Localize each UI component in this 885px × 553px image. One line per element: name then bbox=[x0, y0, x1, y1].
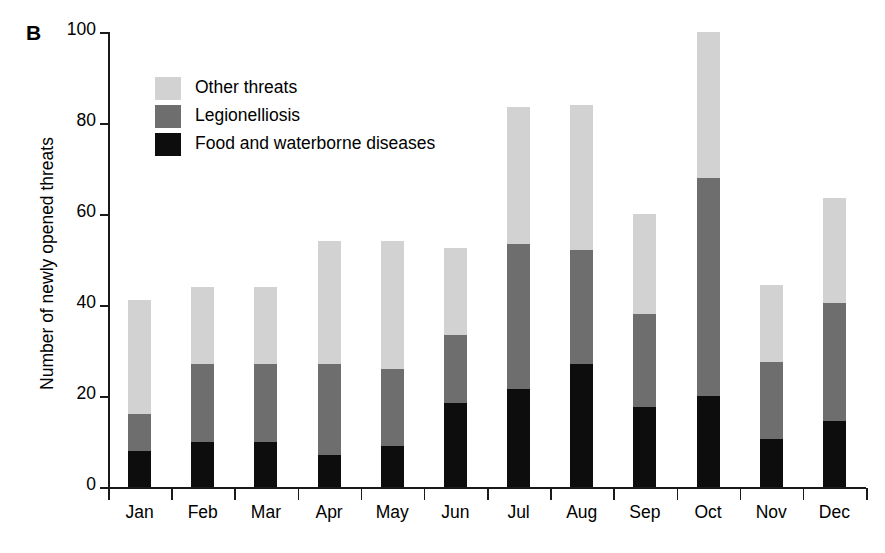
figure-panel-b: B Number of newly opened threats 0204060… bbox=[0, 0, 885, 553]
bar-segment-apr-1 bbox=[318, 364, 341, 455]
legend: Other threatsLegionelliosisFood and wate… bbox=[155, 74, 435, 158]
bar-segment-nov-1 bbox=[760, 362, 783, 439]
legend-swatch-other-threats bbox=[155, 77, 181, 100]
y-tick-label: 0 bbox=[86, 476, 96, 494]
bar-segment-oct-0 bbox=[697, 396, 720, 487]
bar-jun bbox=[444, 248, 467, 487]
bar-segment-jan-2 bbox=[128, 300, 151, 414]
y-tick-label: 20 bbox=[77, 385, 96, 403]
x-tick-label-apr: Apr bbox=[297, 504, 361, 522]
y-tick-label: 40 bbox=[77, 294, 96, 312]
x-tick-label-nov: Nov bbox=[739, 504, 803, 522]
bar-feb bbox=[191, 287, 214, 487]
bar-segment-feb-1 bbox=[191, 364, 214, 441]
bar-jul bbox=[507, 107, 530, 487]
x-tick-mark bbox=[740, 488, 742, 500]
x-tick-mark bbox=[550, 488, 552, 500]
bar-segment-dec-2 bbox=[823, 198, 846, 303]
bar-segment-sep-2 bbox=[633, 214, 656, 314]
bar-segment-jun-2 bbox=[444, 248, 467, 334]
x-tick-mark bbox=[171, 488, 173, 500]
legend-item: Food and waterborne diseases bbox=[155, 130, 435, 158]
bar-nov bbox=[760, 285, 783, 487]
bar-segment-nov-2 bbox=[760, 285, 783, 362]
y-tick-mark bbox=[100, 32, 108, 34]
bar-segment-feb-0 bbox=[191, 442, 214, 488]
bar-segment-sep-0 bbox=[633, 407, 656, 487]
y-tick-mark bbox=[100, 214, 108, 216]
bar-segment-jul-2 bbox=[507, 107, 530, 244]
y-tick-label: 80 bbox=[77, 112, 96, 130]
x-tick-label-oct: Oct bbox=[676, 504, 740, 522]
bar-apr bbox=[318, 241, 341, 487]
bar-aug bbox=[570, 105, 593, 487]
bar-mar bbox=[254, 287, 277, 487]
bar-segment-dec-1 bbox=[823, 303, 846, 421]
x-tick-label-aug: Aug bbox=[550, 504, 614, 522]
x-tick-mark bbox=[108, 488, 110, 500]
x-tick-label-jun: Jun bbox=[423, 504, 487, 522]
bar-segment-mar-2 bbox=[254, 287, 277, 364]
legend-item: Other threats bbox=[155, 74, 435, 102]
bar-segment-apr-2 bbox=[318, 241, 341, 364]
y-tick-mark bbox=[100, 123, 108, 125]
bar-segment-may-2 bbox=[381, 241, 404, 368]
x-tick-mark bbox=[424, 488, 426, 500]
x-tick-mark bbox=[866, 488, 868, 500]
legend-label: Legionelliosis bbox=[195, 107, 300, 125]
legend-item: Legionelliosis bbox=[155, 102, 435, 130]
bar-segment-apr-0 bbox=[318, 455, 341, 487]
y-tick-mark bbox=[100, 305, 108, 307]
bar-segment-aug-0 bbox=[570, 364, 593, 487]
y-axis-line bbox=[108, 32, 110, 487]
bar-may bbox=[381, 241, 404, 487]
bar-segment-may-1 bbox=[381, 369, 404, 446]
x-tick-mark bbox=[613, 488, 615, 500]
bar-segment-aug-1 bbox=[570, 250, 593, 364]
bar-segment-oct-1 bbox=[697, 178, 720, 396]
x-tick-label-feb: Feb bbox=[171, 504, 235, 522]
x-tick-label-sep: Sep bbox=[613, 504, 677, 522]
bar-segment-jan-1 bbox=[128, 414, 151, 450]
bar-segment-jun-0 bbox=[444, 403, 467, 487]
x-tick-label-jul: Jul bbox=[487, 504, 551, 522]
x-tick-label-mar: Mar bbox=[234, 504, 298, 522]
bar-segment-jul-0 bbox=[507, 389, 530, 487]
y-tick-mark bbox=[100, 487, 108, 489]
x-tick-mark bbox=[234, 488, 236, 500]
bar-segment-mar-1 bbox=[254, 364, 277, 441]
bar-segment-mar-0 bbox=[254, 442, 277, 488]
x-tick-label-may: May bbox=[360, 504, 424, 522]
bar-segment-jun-1 bbox=[444, 335, 467, 403]
x-tick-mark bbox=[361, 488, 363, 500]
x-tick-mark bbox=[487, 488, 489, 500]
x-tick-label-jan: Jan bbox=[108, 504, 172, 522]
bar-segment-aug-2 bbox=[570, 105, 593, 251]
legend-label: Food and waterborne diseases bbox=[195, 135, 435, 153]
bar-jan bbox=[128, 300, 151, 487]
legend-swatch-legionelliosis bbox=[155, 105, 181, 128]
bar-oct bbox=[697, 32, 720, 487]
bar-sep bbox=[633, 214, 656, 487]
y-tick-label: 60 bbox=[77, 203, 96, 221]
bar-segment-jan-0 bbox=[128, 451, 151, 487]
bar-segment-jul-1 bbox=[507, 244, 530, 390]
x-tick-label-dec: Dec bbox=[802, 504, 866, 522]
panel-label: B bbox=[26, 22, 41, 43]
x-tick-mark bbox=[298, 488, 300, 500]
legend-label: Other threats bbox=[195, 79, 297, 97]
bar-segment-oct-2 bbox=[697, 32, 720, 178]
y-axis-title: Number of newly opened threats bbox=[37, 99, 58, 429]
bar-segment-may-0 bbox=[381, 446, 404, 487]
x-tick-mark bbox=[803, 488, 805, 500]
bar-segment-feb-2 bbox=[191, 287, 214, 364]
bar-segment-dec-0 bbox=[823, 421, 846, 487]
y-tick-label: 100 bbox=[67, 21, 96, 39]
bar-dec bbox=[823, 198, 846, 487]
bar-segment-sep-1 bbox=[633, 314, 656, 407]
y-tick-mark bbox=[100, 396, 108, 398]
legend-swatch-food-waterborne bbox=[155, 133, 181, 156]
bar-segment-nov-0 bbox=[760, 439, 783, 487]
x-tick-mark bbox=[677, 488, 679, 500]
